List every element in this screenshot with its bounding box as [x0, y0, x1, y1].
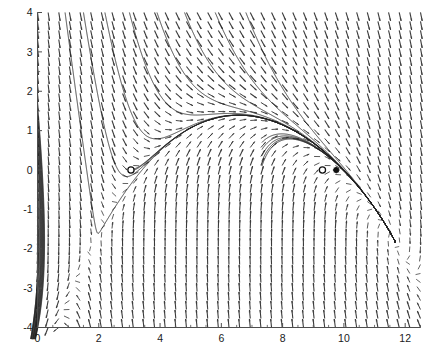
plot-background [0, 0, 432, 359]
critical-point-open-1 [319, 167, 325, 173]
y-tick-label: -2 [23, 242, 32, 254]
x-tick-label: 0 [35, 332, 41, 344]
y-tick-label: 4 [27, 6, 33, 18]
y-tick-label: 3 [27, 46, 33, 58]
x-tick-label: 10 [338, 332, 350, 344]
x-tick-label: 4 [157, 332, 163, 344]
y-tick-label: 0 [27, 164, 33, 176]
x-tick-label: 12 [399, 332, 411, 344]
plot-canvas: 024681012-4-3-2-101234 [0, 0, 432, 359]
x-tick-label: 2 [96, 332, 102, 344]
x-tick-label: 8 [280, 332, 286, 344]
y-tick-label: 2 [27, 85, 33, 97]
y-tick-label: -1 [23, 203, 32, 215]
y-tick-label: -3 [23, 282, 32, 294]
y-tick-label: 1 [27, 124, 33, 136]
y-tick-label: -4 [23, 321, 32, 333]
critical-point-open-0 [128, 167, 134, 173]
x-tick-label: 6 [218, 332, 224, 344]
phase-portrait-figure: 024681012-4-3-2-101234 [0, 0, 432, 359]
